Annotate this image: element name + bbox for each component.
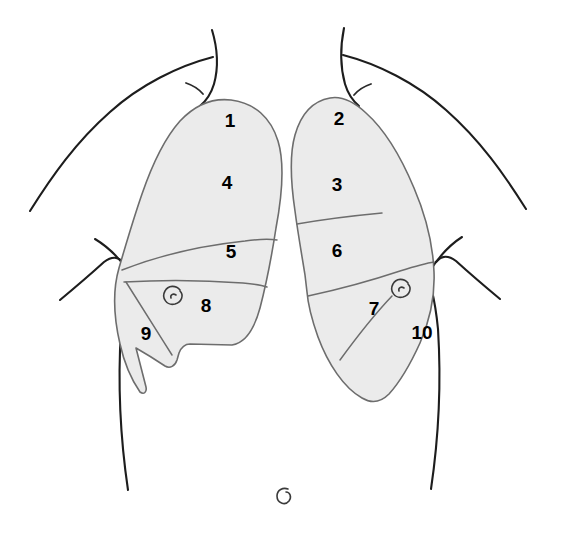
site-label-2: 2 (334, 108, 345, 129)
site-label-3: 3 (332, 174, 343, 195)
right-flank-line (436, 257, 500, 299)
right-lung-group (291, 98, 434, 402)
site-label-6: 6 (332, 240, 343, 261)
left-lung-field (115, 100, 282, 394)
site-label-7: 7 (369, 298, 380, 319)
lung-auscultation-diagram: 1 2 3 4 5 6 7 8 9 10 (0, 0, 562, 540)
anatomy-illustration: 1 2 3 4 5 6 7 8 9 10 (0, 0, 562, 540)
site-label-8: 8 (201, 295, 212, 316)
site-label-9: 9 (141, 323, 152, 344)
left-lung-group (115, 100, 282, 394)
navel-marker (277, 488, 290, 503)
torso-outline-group (30, 28, 526, 490)
neck-left-muscle-line (186, 83, 203, 94)
right-lung-field (291, 98, 434, 402)
neck-right-muscle-line (354, 84, 371, 95)
site-label-5: 5 (226, 241, 237, 262)
site-label-10: 10 (411, 322, 432, 343)
site-label-1: 1 (225, 110, 236, 131)
neck-right-line (341, 28, 359, 106)
site-label-4: 4 (222, 172, 233, 193)
